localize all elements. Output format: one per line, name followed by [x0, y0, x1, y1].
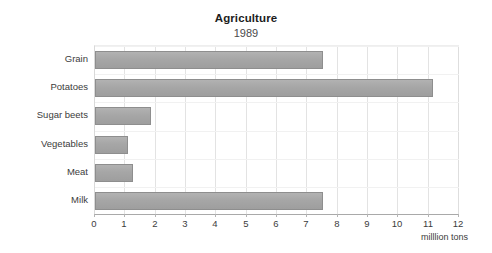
bar [95, 164, 133, 182]
x-tick-label: 9 [352, 218, 382, 229]
x-tick-mark [428, 214, 429, 217]
x-tick-mark [276, 214, 277, 217]
x-tick-label: 10 [382, 218, 412, 229]
bar [95, 51, 323, 69]
bar [95, 136, 128, 154]
bar-chart-figure: Agriculture 1989 GrainPotatoesSugar beet… [0, 0, 492, 253]
bar [95, 107, 151, 125]
category-axis-labels: GrainPotatoesSugar beetsVegetablesMeatMi… [0, 45, 94, 214]
x-tick-label: 2 [140, 218, 170, 229]
category-label: Milk [2, 195, 88, 205]
chart-title: Agriculture [0, 12, 492, 24]
chart-subtitle: 1989 [0, 27, 492, 39]
category-label: Meat [2, 167, 88, 177]
x-tick-mark [458, 214, 459, 217]
x-tick-mark [246, 214, 247, 217]
x-tick-mark [94, 214, 95, 217]
bar [95, 192, 323, 210]
x-tick-label: 12 [443, 218, 473, 229]
x-tick-mark [306, 214, 307, 217]
x-tick-mark [124, 214, 125, 217]
category-label: Potatoes [2, 82, 88, 92]
category-label: Sugar beets [2, 110, 88, 120]
x-tick-mark [185, 214, 186, 217]
bar [95, 79, 433, 97]
x-tick-label: 4 [200, 218, 230, 229]
x-tick-label: 1 [109, 218, 139, 229]
x-tick-label: 3 [170, 218, 200, 229]
x-tick-mark [215, 214, 216, 217]
x-tick-label: 0 [79, 218, 109, 229]
x-tick-label: 6 [261, 218, 291, 229]
plot-area [94, 45, 459, 215]
x-tick-label: 8 [322, 218, 352, 229]
bar-row [95, 46, 459, 74]
x-tick-mark [367, 214, 368, 217]
x-axis-title: milllion tons [421, 232, 468, 242]
x-tick-label: 5 [231, 218, 261, 229]
category-label: Grain [2, 54, 88, 64]
x-tick-mark [337, 214, 338, 217]
bar-row [95, 74, 459, 102]
x-tick-mark [155, 214, 156, 217]
x-tick-label: 7 [291, 218, 321, 229]
bar-row [95, 102, 459, 130]
x-tick-mark [397, 214, 398, 217]
category-label: Vegetables [2, 139, 88, 149]
bar-row [95, 159, 459, 187]
bar-row [95, 187, 459, 215]
bar-row [95, 131, 459, 159]
x-tick-label: 11 [413, 218, 443, 229]
